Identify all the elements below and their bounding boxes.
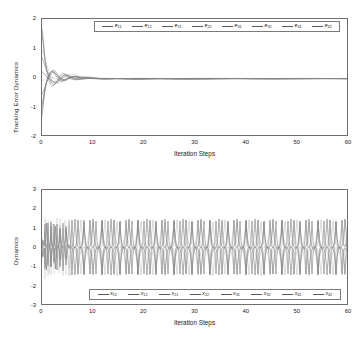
y-tick-dynamics: -1 xyxy=(22,263,36,269)
legend-line-icon xyxy=(159,294,170,295)
legend-line-icon xyxy=(282,294,293,295)
x-tick-dynamics: 10 xyxy=(89,308,96,314)
legend-item[interactable]: x22 xyxy=(184,291,215,298)
legend-label: x12 xyxy=(141,291,148,298)
legend-label: e12 xyxy=(144,23,151,30)
legend-item[interactable]: e22 xyxy=(187,23,217,30)
legend-item[interactable]: e32 xyxy=(247,23,277,30)
y-tick-dynamics: 0 xyxy=(24,244,36,250)
panel-tracking-error: Tracking Error Dynamics 2 1 0 -1 -2 xyxy=(0,0,362,180)
dynamics-curves xyxy=(42,190,348,305)
x-tick-dynamics: 40 xyxy=(242,308,249,314)
x-axis-label-tracking-error: Iteration Steps xyxy=(41,150,348,157)
legend-line-icon xyxy=(128,294,139,295)
x-tick-dynamics: 0 xyxy=(39,308,42,314)
legend-label: e21 xyxy=(174,23,181,30)
legend-item[interactable]: e11 xyxy=(97,23,127,30)
legend-label: e31 xyxy=(235,23,242,30)
x-tick-tracking-error: 50 xyxy=(294,139,301,145)
legend-label: x41 xyxy=(295,291,302,298)
legend-item[interactable]: x31 xyxy=(215,291,246,298)
legend-line-icon xyxy=(313,294,324,295)
legend-line-icon xyxy=(132,26,143,27)
y-tick-dynamics: -3 xyxy=(22,302,36,308)
legend-item[interactable]: e42 xyxy=(307,23,337,30)
y-tick-tracking-error: 1 xyxy=(24,45,36,51)
legend-line-icon xyxy=(221,294,232,295)
legend-tracking-error: e11 e12 e21 e22 e31 e32 xyxy=(94,21,340,32)
legend-label: x32 xyxy=(264,291,271,298)
y-tick-dynamics: 1 xyxy=(24,225,36,231)
legend-label: x22 xyxy=(202,291,209,298)
y-tick-tracking-error: 2 xyxy=(24,15,36,21)
legend-item[interactable]: x11 xyxy=(92,291,123,298)
legend-line-icon xyxy=(102,26,113,27)
tracking-error-curves xyxy=(42,19,348,136)
legend-line-icon xyxy=(222,26,233,27)
plot-area-dynamics xyxy=(41,189,348,305)
legend-line-icon xyxy=(282,26,293,27)
legend-line-icon xyxy=(312,26,323,27)
x-tick-tracking-error: 20 xyxy=(140,139,147,145)
y-tick-dynamics: 2 xyxy=(24,205,36,211)
y-axis-label-dynamics: Dynamics xyxy=(12,237,19,265)
legend-item[interactable]: e31 xyxy=(217,23,247,30)
legend-line-icon xyxy=(98,294,109,295)
legend-line-icon xyxy=(162,26,173,27)
legend-item[interactable]: e12 xyxy=(127,23,157,30)
legend-item[interactable]: x32 xyxy=(246,291,277,298)
legend-item[interactable]: x41 xyxy=(276,291,307,298)
x-tick-dynamics: 20 xyxy=(140,308,147,314)
y-axis-label-tracking-error: Tracking Error Dynamics xyxy=(12,62,19,133)
x-tick-tracking-error: 60 xyxy=(345,139,352,145)
x-tick-dynamics: 60 xyxy=(345,308,352,314)
figure-root: Tracking Error Dynamics 2 1 0 -1 -2 xyxy=(0,0,362,343)
plot-area-tracking-error xyxy=(41,18,348,136)
legend-label: x31 xyxy=(233,291,240,298)
y-tick-tracking-error: 0 xyxy=(24,74,36,80)
legend-item[interactable]: x12 xyxy=(123,291,154,298)
x-tick-tracking-error: 0 xyxy=(39,139,42,145)
legend-item[interactable]: x42 xyxy=(307,291,338,298)
legend-label: x21 xyxy=(172,291,179,298)
legend-line-icon xyxy=(251,294,262,295)
legend-dynamics: x11 x12 x21 x22 x31 x32 xyxy=(89,289,341,300)
y-tick-tracking-error: -1 xyxy=(22,104,36,110)
x-axis-label-dynamics: Iteration Steps xyxy=(41,319,348,326)
legend-label: x11 xyxy=(110,291,117,298)
x-tick-tracking-error: 30 xyxy=(191,139,198,145)
legend-line-icon xyxy=(192,26,203,27)
x-tick-dynamics: 30 xyxy=(191,308,198,314)
x-tick-tracking-error: 40 xyxy=(242,139,249,145)
legend-label: e42 xyxy=(325,23,332,30)
y-tick-dynamics: -2 xyxy=(22,283,36,289)
legend-label: e41 xyxy=(295,23,302,30)
legend-label: x42 xyxy=(325,291,332,298)
legend-line-icon xyxy=(252,26,263,27)
legend-label: e11 xyxy=(115,23,122,30)
x-tick-tracking-error: 10 xyxy=(89,139,96,145)
y-tick-dynamics: 3 xyxy=(24,186,36,192)
legend-item[interactable]: x21 xyxy=(153,291,184,298)
y-tick-tracking-error: -2 xyxy=(22,133,36,139)
legend-line-icon xyxy=(190,294,201,295)
panel-dynamics: Dynamics 3 2 1 0 -1 -2 -3 xyxy=(0,180,362,343)
legend-item[interactable]: e21 xyxy=(157,23,187,30)
x-tick-dynamics: 50 xyxy=(294,308,301,314)
legend-label: e32 xyxy=(265,23,272,30)
legend-item[interactable]: e41 xyxy=(277,23,307,30)
legend-label: e22 xyxy=(205,23,212,30)
